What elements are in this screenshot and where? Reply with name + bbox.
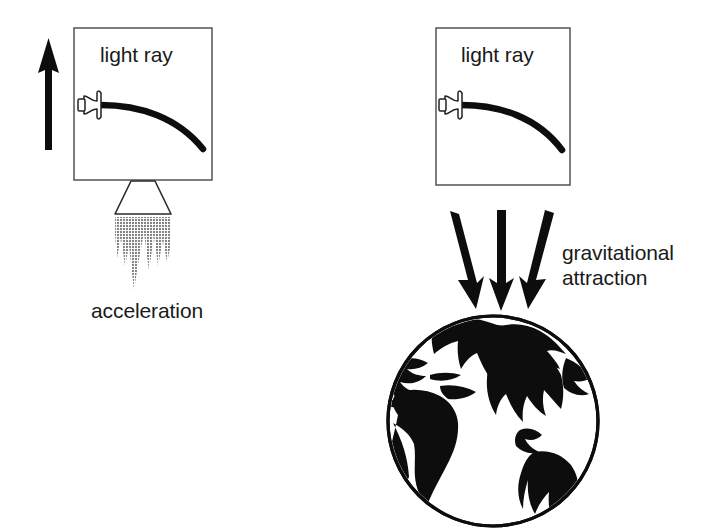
down-arrow-icon-left [450,211,484,309]
rocket-nozzle-icon [115,181,171,214]
down-arrow-icon-center [489,210,514,311]
gravity-caption-line1: gravitational [562,241,674,264]
right-light-ray-label: light ray [461,42,534,67]
exhaust-flame-icon [115,217,171,290]
up-arrow-icon [38,38,59,150]
globe-icon [372,316,598,526]
down-arrow-icon-group [450,210,554,311]
gravity-caption-line2: attraction [562,266,647,289]
down-arrow-icon-right [519,210,554,309]
equivalence-principle-diagram: light ray light ray acceleration gravita… [0,0,706,530]
left-light-ray-label: light ray [100,42,173,67]
acceleration-caption: acceleration [91,298,203,323]
gravitational-attraction-caption: gravitationalattraction [562,240,674,290]
